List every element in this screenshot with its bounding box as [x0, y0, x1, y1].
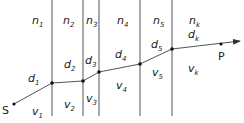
layered-ray-diagram: n1 n2 n3 n4 n5 nk d1 d2 d3 d4 d5 dk v1 v…: [0, 0, 244, 123]
label-dk: dk: [188, 28, 200, 43]
label-n2: n2: [63, 14, 75, 29]
point-target: [219, 42, 222, 45]
label-d4: d4: [115, 48, 126, 63]
label-source: S: [2, 104, 9, 117]
label-vk: vk: [188, 62, 200, 77]
label-d3: d3: [85, 54, 96, 69]
point-2: [81, 79, 85, 83]
n-labels: n1 n2 n3 n4 n5 nk: [32, 14, 201, 29]
label-v5: v5: [152, 66, 164, 81]
label-d5: d5: [151, 38, 163, 53]
label-v3: v3: [86, 92, 97, 107]
label-v2: v2: [64, 98, 76, 113]
label-n1: n1: [32, 14, 43, 29]
label-d1: d1: [28, 72, 39, 87]
point-1: [50, 81, 54, 85]
label-n5: n5: [153, 14, 165, 29]
label-n4: n4: [117, 14, 128, 29]
d-labels: d1 d2 d3 d4 d5 dk: [28, 28, 200, 87]
label-n3: n3: [86, 14, 97, 29]
label-target: P: [218, 50, 225, 63]
point-5: [170, 47, 174, 51]
label-d2: d2: [64, 58, 76, 73]
label-nk: nk: [189, 14, 201, 29]
point-3: [97, 70, 101, 74]
point-4: [138, 62, 142, 66]
ray-path: [14, 41, 240, 104]
point-source: [12, 102, 15, 105]
label-v4: v4: [116, 79, 127, 94]
v-labels: v1 v2 v3 v4 v5 vk: [32, 62, 200, 120]
label-v1: v1: [32, 105, 43, 120]
